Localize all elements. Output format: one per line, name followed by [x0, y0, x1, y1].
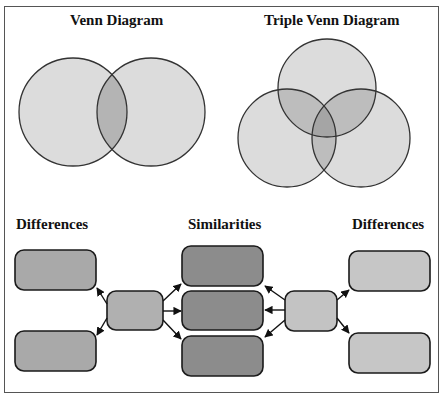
difference-box-left-top [15, 250, 96, 290]
similarity-box-3 [182, 336, 263, 376]
similarity-box-2 [182, 291, 263, 330]
difference-box-left-bottom [15, 331, 96, 371]
diagram-canvas [0, 0, 441, 399]
arrow-icon [337, 290, 349, 300]
arrow-icon [97, 288, 107, 304]
arrow-icon [163, 320, 181, 339]
arrow-icon [163, 284, 181, 301]
arrow-icon [265, 286, 285, 300]
triple-venn-diagram [238, 39, 410, 187]
similarity-box-1 [182, 246, 263, 286]
venn-diagram [19, 58, 205, 166]
arrow-icon [265, 320, 285, 337]
arrow-icon [337, 318, 349, 333]
difference-box-right-top [349, 251, 430, 291]
compare-contrast-organizer [15, 246, 430, 376]
arrow-icon [97, 318, 107, 335]
topic-box-right [285, 291, 337, 331]
difference-box-right-bottom [349, 333, 430, 373]
topic-box-left [107, 291, 163, 330]
